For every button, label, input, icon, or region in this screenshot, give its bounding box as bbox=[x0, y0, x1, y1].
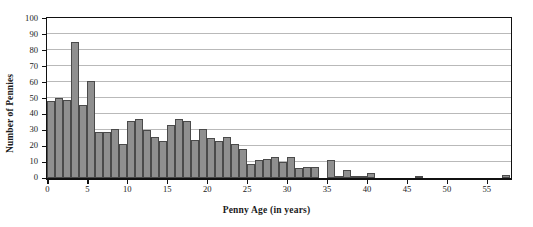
x-tick-label: 0 bbox=[36, 184, 58, 194]
bar bbox=[79, 105, 87, 178]
bar bbox=[127, 121, 135, 178]
y-tick-label: 20 bbox=[14, 140, 38, 150]
bar bbox=[47, 101, 55, 178]
bar bbox=[263, 159, 271, 178]
y-tick-mark bbox=[42, 98, 46, 99]
x-tick-label: 35 bbox=[316, 184, 338, 194]
bar bbox=[239, 149, 247, 178]
bar bbox=[103, 132, 111, 178]
bar bbox=[255, 160, 263, 178]
bar bbox=[295, 168, 303, 178]
bar bbox=[159, 141, 167, 178]
y-tick-label: 100 bbox=[14, 13, 38, 23]
y-tick-label: 80 bbox=[14, 45, 38, 55]
bar bbox=[343, 170, 351, 178]
y-tick-label: 60 bbox=[14, 77, 38, 87]
bar bbox=[303, 167, 311, 178]
bar bbox=[271, 157, 279, 178]
bar bbox=[231, 144, 239, 178]
bar bbox=[199, 129, 207, 178]
y-tick-mark bbox=[42, 178, 46, 179]
bar bbox=[167, 125, 175, 178]
x-tick-label: 25 bbox=[236, 184, 258, 194]
x-tick-mark bbox=[287, 180, 288, 184]
y-tick-mark bbox=[42, 162, 46, 163]
x-tick-mark bbox=[207, 180, 208, 184]
y-tick-label: 0 bbox=[14, 172, 38, 182]
bar bbox=[143, 130, 151, 178]
x-tick-label: 30 bbox=[276, 184, 298, 194]
bar bbox=[135, 119, 143, 178]
bar bbox=[279, 162, 287, 178]
x-tick-label: 55 bbox=[476, 184, 498, 194]
bar bbox=[287, 157, 295, 178]
bar bbox=[183, 121, 191, 178]
y-tick-mark bbox=[42, 146, 46, 147]
y-tick-mark bbox=[42, 18, 46, 19]
bar-series bbox=[47, 18, 511, 178]
x-tick-mark bbox=[447, 180, 448, 184]
plot-area bbox=[46, 17, 512, 180]
bar bbox=[87, 81, 95, 178]
x-tick-mark bbox=[247, 180, 248, 184]
x-tick-mark bbox=[407, 180, 408, 184]
x-tick-label: 10 bbox=[116, 184, 138, 194]
y-tick-mark bbox=[42, 50, 46, 51]
x-tick-label: 5 bbox=[76, 184, 98, 194]
x-tick-mark bbox=[87, 180, 88, 184]
x-tick-mark bbox=[47, 180, 48, 184]
histogram-chart: Number of Pennies 0102030405060708090100… bbox=[0, 0, 533, 227]
bar bbox=[175, 119, 183, 178]
y-tick-mark bbox=[42, 82, 46, 83]
x-tick-label: 45 bbox=[396, 184, 418, 194]
x-tick-mark bbox=[327, 180, 328, 184]
bar bbox=[367, 173, 375, 178]
bar bbox=[95, 132, 103, 178]
bar bbox=[247, 164, 255, 178]
bar bbox=[223, 137, 231, 178]
bar bbox=[191, 140, 199, 178]
y-tick-mark bbox=[42, 130, 46, 131]
bar bbox=[415, 176, 423, 178]
x-tick-label: 20 bbox=[196, 184, 218, 194]
bar bbox=[502, 175, 510, 178]
bar bbox=[327, 160, 335, 178]
bar bbox=[111, 129, 119, 178]
x-tick-mark bbox=[127, 180, 128, 184]
bar bbox=[55, 98, 63, 178]
bar bbox=[215, 141, 223, 178]
bar bbox=[71, 42, 79, 178]
bar bbox=[63, 100, 71, 178]
y-tick-mark bbox=[42, 34, 46, 35]
bar bbox=[151, 137, 159, 178]
y-tick-label: 70 bbox=[14, 61, 38, 71]
y-tick-label: 30 bbox=[14, 124, 38, 134]
y-tick-label: 50 bbox=[14, 93, 38, 103]
y-tick-label: 10 bbox=[14, 156, 38, 166]
y-tick-label: 90 bbox=[14, 29, 38, 39]
bar bbox=[335, 176, 343, 178]
y-tick-mark bbox=[42, 114, 46, 115]
bar bbox=[311, 167, 319, 178]
bar bbox=[119, 144, 127, 178]
bar bbox=[359, 176, 367, 178]
bar bbox=[351, 176, 359, 178]
y-tick-mark bbox=[42, 66, 46, 67]
x-tick-label: 15 bbox=[156, 184, 178, 194]
x-tick-mark bbox=[167, 180, 168, 184]
y-tick-label: 40 bbox=[14, 108, 38, 118]
bar bbox=[207, 138, 215, 178]
x-tick-mark bbox=[487, 180, 488, 184]
x-tick-label: 40 bbox=[356, 184, 378, 194]
x-axis-title: Penny Age (in years) bbox=[0, 205, 533, 215]
x-tick-mark bbox=[367, 180, 368, 184]
x-tick-label: 50 bbox=[436, 184, 458, 194]
